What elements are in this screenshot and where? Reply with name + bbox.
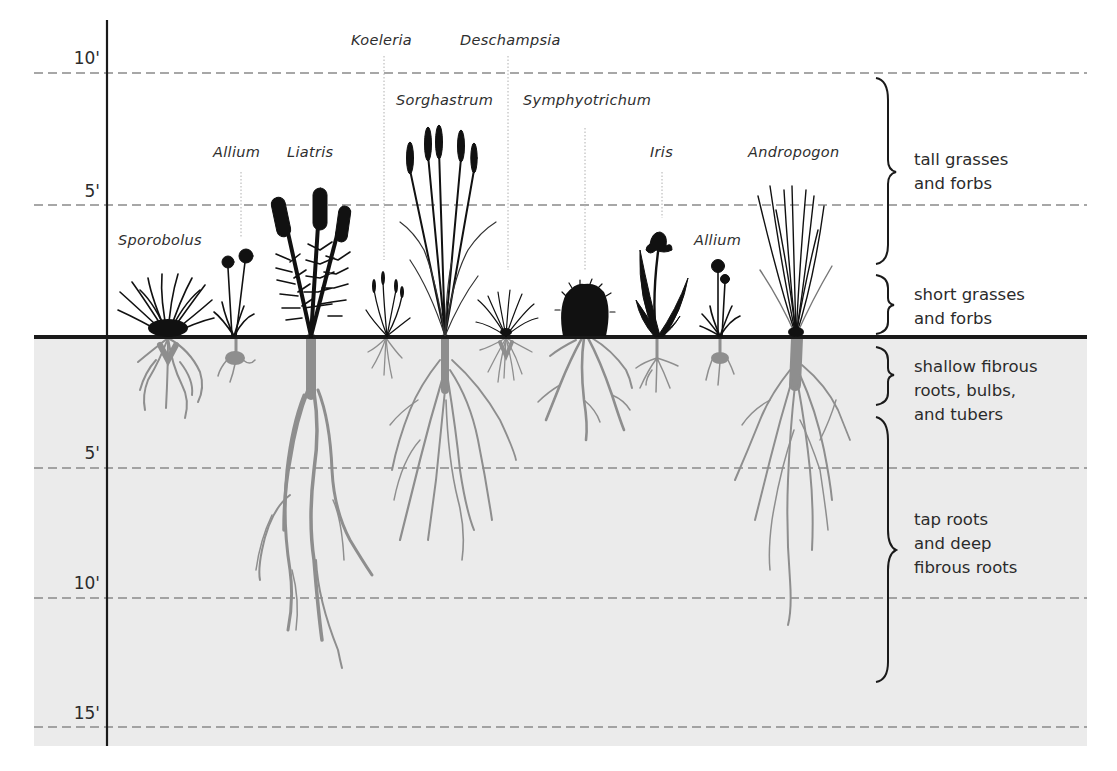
allium-1-roots bbox=[218, 338, 255, 382]
plant-label-sporobolus: Sporobolus bbox=[118, 232, 202, 248]
koeleria-roots bbox=[368, 338, 402, 378]
andropogon-roots bbox=[735, 338, 850, 625]
symphyotrichum-roots bbox=[538, 338, 632, 440]
axis-label-below-10ft: 10' bbox=[30, 573, 100, 593]
plant-label-sorghastrum: Sorghastrum bbox=[396, 92, 493, 108]
axis-label-above-5ft: 5' bbox=[30, 181, 100, 201]
deschampsia-silhouette bbox=[476, 290, 538, 336]
plant-label-allium-1: Allium bbox=[213, 144, 260, 160]
brace-tall-grasses bbox=[876, 78, 896, 264]
sorghastrum-roots bbox=[390, 338, 516, 560]
iris-roots bbox=[636, 338, 678, 392]
koeleria-silhouette bbox=[366, 271, 410, 336]
leader-lines bbox=[241, 56, 662, 270]
sorghastrum-silhouette bbox=[400, 125, 496, 336]
andropogon-silhouette bbox=[758, 186, 832, 337]
plant-label-liatris: Liatris bbox=[287, 144, 333, 160]
brace-shallow-roots bbox=[876, 347, 894, 405]
zone-label-short-grasses: short grasses and forbs bbox=[914, 283, 1025, 331]
liatris-roots bbox=[256, 338, 372, 668]
plant-label-allium-2: Allium bbox=[694, 232, 741, 248]
symphyotrichum-silhouette bbox=[555, 279, 615, 336]
deschampsia-roots bbox=[480, 338, 532, 382]
plant-label-koeleria: Koeleria bbox=[351, 32, 412, 48]
prairie-root-diagram: 10' 5' 5' 10' 15' Sporobolus Allium Liat… bbox=[0, 0, 1117, 771]
axis-label-below-15ft: 15' bbox=[30, 703, 100, 723]
zone-label-deep-roots: tap roots and deep fibrous roots bbox=[914, 508, 1017, 580]
axis-label-below-5ft: 5' bbox=[30, 443, 100, 463]
allium-2-roots bbox=[706, 338, 734, 385]
plant-label-iris: Iris bbox=[650, 144, 673, 160]
brace-deep-roots bbox=[876, 417, 896, 682]
allium-2-silhouette bbox=[700, 260, 740, 337]
plant-label-andropogon: Andropogon bbox=[748, 144, 840, 160]
iris-silhouette bbox=[636, 232, 688, 336]
sporobolus-roots bbox=[138, 338, 202, 418]
zone-label-tall-grasses: tall grasses and forbs bbox=[914, 148, 1008, 196]
plant-label-symphyotrichum: Symphyotrichum bbox=[523, 92, 651, 108]
liatris-silhouette bbox=[270, 188, 351, 336]
allium-1-silhouette bbox=[214, 249, 254, 336]
sporobolus-silhouette bbox=[118, 274, 214, 337]
plant-label-deschampsia: Deschampsia bbox=[460, 32, 561, 48]
brace-short-grasses bbox=[876, 275, 894, 334]
axis-label-above-10ft: 10' bbox=[30, 48, 100, 68]
zone-braces bbox=[876, 78, 896, 682]
zone-label-shallow-roots: shallow fibrous roots, bulbs, and tubers bbox=[914, 355, 1038, 427]
roots bbox=[138, 338, 850, 668]
